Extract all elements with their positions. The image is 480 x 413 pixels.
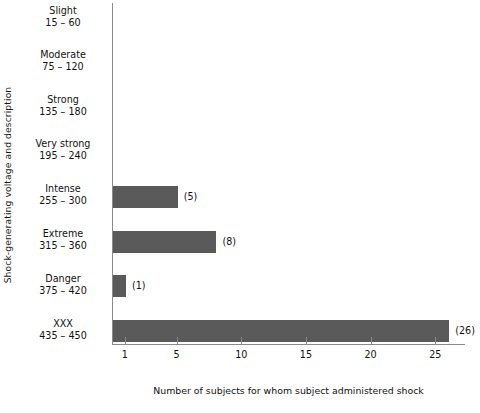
bar-chart: Shock-generating voltage and description…	[0, 0, 480, 413]
bar	[113, 320, 449, 342]
category-range: 195 – 240	[18, 150, 108, 162]
category-range: 135 – 180	[18, 106, 108, 118]
x-tick-mark	[125, 337, 126, 345]
y-axis-title: Shock-generating voltage and description	[1, 0, 15, 370]
category-name: Danger	[18, 273, 108, 285]
category-label: Danger 375 – 420	[18, 273, 108, 297]
x-tick-mark	[435, 337, 436, 345]
bar	[113, 231, 216, 253]
category-label: XXX 435 – 450	[18, 318, 108, 342]
bar-value-label: (26)	[455, 320, 475, 342]
category-range: 255 – 300	[18, 195, 108, 207]
x-tick-mark	[241, 337, 242, 345]
bar	[113, 186, 178, 208]
category-range: 375 – 420	[18, 285, 108, 297]
category-range: 75 – 120	[18, 61, 108, 73]
x-tick-mark	[306, 337, 307, 345]
x-tick-label: 1	[122, 349, 128, 361]
x-tick-label: 5	[174, 349, 180, 361]
category-name: Slight	[18, 5, 108, 17]
bar-value-label: (1)	[132, 275, 146, 297]
category-label: Very strong 195 – 240	[18, 138, 108, 162]
x-axis-line	[112, 344, 465, 345]
category-label: Intense 255 – 300	[18, 183, 108, 207]
category-label-list: Slight 15 – 60 Moderate 75 – 120 Strong …	[18, 3, 108, 345]
x-tick-mark	[177, 337, 178, 345]
x-axis-title: Number of subjects for whom subject admi…	[112, 385, 465, 396]
category-range: 435 – 450	[18, 330, 108, 342]
category-range: 15 – 60	[18, 17, 108, 29]
bar-value-label: (5)	[184, 186, 198, 208]
category-name: Strong	[18, 94, 108, 106]
category-label: Moderate 75 – 120	[18, 49, 108, 73]
x-tick-mark	[371, 337, 372, 345]
category-label: Extreme 315 – 360	[18, 228, 108, 252]
category-label: Slight 15 – 60	[18, 5, 108, 29]
x-tick-label: 25	[429, 349, 441, 361]
plot-area: (5)(8)(1)(26) 1510152025	[112, 3, 465, 345]
category-name: Intense	[18, 183, 108, 195]
bar-value-label: (8)	[222, 231, 236, 253]
category-name: Very strong	[18, 138, 108, 150]
x-tick-label: 10	[235, 349, 247, 361]
category-range: 315 – 360	[18, 240, 108, 252]
category-name: XXX	[18, 318, 108, 330]
bar	[113, 275, 126, 297]
x-tick-label: 20	[364, 349, 376, 361]
category-name: Extreme	[18, 228, 108, 240]
category-label: Strong 135 – 180	[18, 94, 108, 118]
y-axis-title-container: Shock-generating voltage and description	[1, 0, 15, 370]
x-tick-label: 15	[300, 349, 312, 361]
category-name: Moderate	[18, 49, 108, 61]
